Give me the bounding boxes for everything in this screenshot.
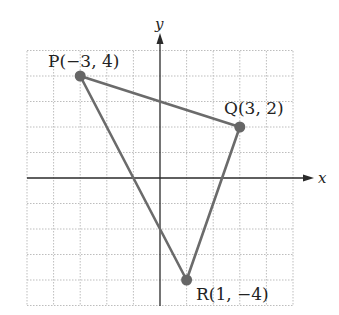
label-q: Q(3, 2) xyxy=(224,98,284,118)
axes xyxy=(27,33,314,306)
coordinate-plane: x y P(−3, 4) Q(3, 2) R(1, −4) xyxy=(0,0,339,315)
x-axis-label: x xyxy=(318,169,327,187)
point-p xyxy=(75,71,86,82)
y-axis-label: y xyxy=(154,15,164,33)
label-p: P(−3, 4) xyxy=(48,51,119,71)
point-q xyxy=(234,122,245,133)
x-axis-arrow-icon xyxy=(303,175,314,182)
point-r xyxy=(181,275,192,286)
label-r: R(1, −4) xyxy=(196,284,269,304)
y-axis-arrow-icon xyxy=(157,33,164,44)
